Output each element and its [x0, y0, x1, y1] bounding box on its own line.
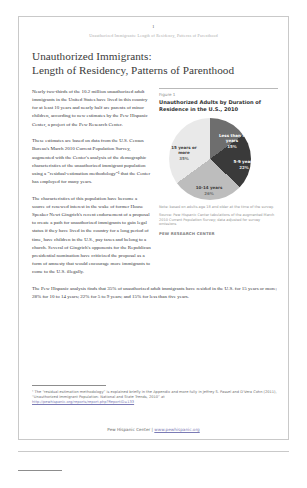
left-column: Nearly two-thirds of the 10.2 million un… [32, 88, 151, 276]
figure-note: Note: based on adults age 18 and older a… [159, 205, 278, 210]
page-title: Unauthorized Immigrants: Length of Resid… [32, 49, 276, 77]
footnote-body: ¹ The “residual-estimation methodology” … [32, 390, 277, 399]
footer-text: Pew Hispanic Center | [107, 427, 154, 432]
pie-slice-value-10-14-years: 26% [191, 192, 227, 197]
figure-source: Source: Pew Hispanic Center tabulations … [159, 213, 278, 227]
pie-slice-value-15-years-or-more: 35% [167, 157, 201, 162]
pie-slice-name-5-9-years: 5-9 years [234, 159, 255, 164]
figure-brand: PEW RESEARCH CENTER [159, 231, 278, 236]
paragraph-3-start: The characteristics of this population h… [32, 195, 151, 277]
below-page-rule [18, 451, 289, 452]
pie-slice-name-less-than-5-years: Less than 5 years [219, 133, 245, 143]
pie-slice-value-less-than-5-years: 15% [215, 145, 249, 150]
figure-label: Figure 1 [159, 92, 278, 97]
pie-chart: Less than 5 years 15% 5-9 years 22% 10-1… [159, 116, 278, 202]
pie-slice-label-10-14-years: 10-14 years 26% [191, 186, 227, 197]
footnote-rule [32, 385, 106, 386]
paragraph-2: These estimates are based on data from t… [32, 137, 151, 186]
paragraph-1: Nearly two-thirds of the 10.2 million un… [32, 88, 151, 129]
figure-title: Unauthorized Adults by Duration of Resid… [159, 99, 278, 112]
footnote-text: ¹ The “residual-estimation methodology” … [32, 390, 278, 405]
figure-1: Figure 1 Unauthorized Adults by Duration… [159, 88, 278, 236]
footnote-link[interactable]: http://pewhispanic.org/reports/report.ph… [32, 400, 134, 404]
pie-slice-label-less-than-5-years: Less than 5 years 15% [215, 134, 249, 150]
footnote: ¹ The “residual-estimation methodology” … [32, 385, 278, 405]
pie-slice-label-15-years-or-more: 15 years or more 35% [167, 146, 201, 162]
article-content: Nearly two-thirds of the 10.2 million un… [32, 88, 278, 301]
pie-slice-name-10-14-years: 10-14 years [196, 185, 223, 190]
page-footer: Pew Hispanic Center | www.pewhispanic.or… [19, 427, 288, 432]
paragraph-4: The Pew Hispanic analysis finds that 35%… [32, 285, 278, 301]
below-page-mark [18, 470, 62, 471]
pie-slice-label-5-9-years: 5-9 years 22% [229, 160, 259, 171]
page-number: 1 [19, 24, 288, 29]
title-line-2: Length of Residency, Patterns of Parenth… [32, 63, 276, 77]
figure-top-rule [159, 88, 278, 89]
pie-slice-value-5-9-years: 22% [229, 166, 259, 171]
document-page: 1 Unauthorized Immigrants: Length of Res… [18, 16, 289, 440]
running-header: Unauthorized Immigrants: Length of Resid… [19, 34, 288, 38]
pie-slice-name-15-years-or-more: 15 years or more [171, 145, 196, 155]
footer-link[interactable]: www.pewhispanic.org [154, 427, 199, 432]
title-line-1: Unauthorized Immigrants: [32, 49, 276, 63]
